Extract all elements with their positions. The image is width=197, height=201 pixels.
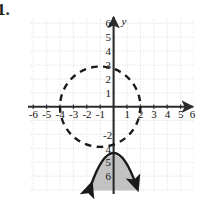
graph-figure: 1. [0,0,197,201]
y-axis-label: y [121,15,127,27]
y-tick-label: -2 [103,129,112,141]
y-tick-labels-positive: 6 5 4 3 2 1 [106,17,112,99]
x-tick-label: 6 [190,108,196,120]
x-tick-label: -6 [29,108,39,120]
y-tick-label: 4 [106,143,112,155]
x-tick-label: 5 [178,108,184,120]
y-tick-label: 3 [106,59,112,71]
y-tick-label: 5 [106,31,112,43]
x-tick-labels: -6 -5 -4 -3 -2 -1 1 2 3 4 5 6 [29,108,196,120]
x-tick-label: -2 [82,108,91,120]
y-tick-label: 2 [106,73,112,85]
x-tick-label: 4 [165,108,171,120]
y-tick-label: 1 [106,87,112,99]
x-tick-label: 1 [124,108,130,120]
y-tick-label: 6 [106,17,112,29]
x-tick-label: -4 [56,108,66,120]
x-tick-label: 3 [151,108,157,120]
x-tick-label: -1 [96,108,105,120]
y-tick-label: 4 [106,45,112,57]
x-tick-label: -3 [69,108,79,120]
y-tick-label: 6 [106,170,112,182]
x-tick-label: -5 [42,108,52,120]
x-tick-label: 2 [138,108,144,120]
y-tick-label: 5 [106,156,112,168]
coordinate-plane: -6 -5 -4 -3 -2 -1 1 2 3 4 5 6 6 5 4 3 2 … [0,0,197,201]
